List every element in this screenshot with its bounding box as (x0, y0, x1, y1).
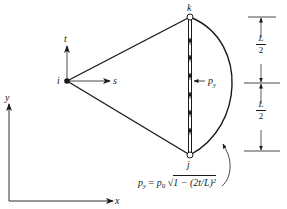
edge-i-k (67, 17, 190, 81)
node-label-k: k (187, 3, 191, 13)
node-j (187, 152, 193, 158)
dimension-label-lower: L2 (256, 100, 266, 121)
load-label-py: py (208, 76, 216, 89)
global-axis-label-x: x (115, 196, 119, 206)
load-formula: py = p0 √1 − (2t/L)² (138, 178, 216, 190)
global-axis-label-y: y (5, 93, 9, 103)
formula-leader (222, 144, 230, 186)
element-edges (67, 17, 192, 155)
node-label-j: j (187, 160, 190, 170)
diagram-canvas: i k j s t y x py L2 L2 py = p0 √1 − (2t/… (0, 0, 287, 209)
local-axis-label-s: s (113, 76, 117, 86)
edge-i-j (67, 81, 190, 155)
local-axis-label-t: t (64, 34, 67, 44)
dimension-label-upper: L2 (256, 34, 266, 55)
node-k (187, 14, 193, 20)
node-label-i: i (57, 76, 60, 86)
